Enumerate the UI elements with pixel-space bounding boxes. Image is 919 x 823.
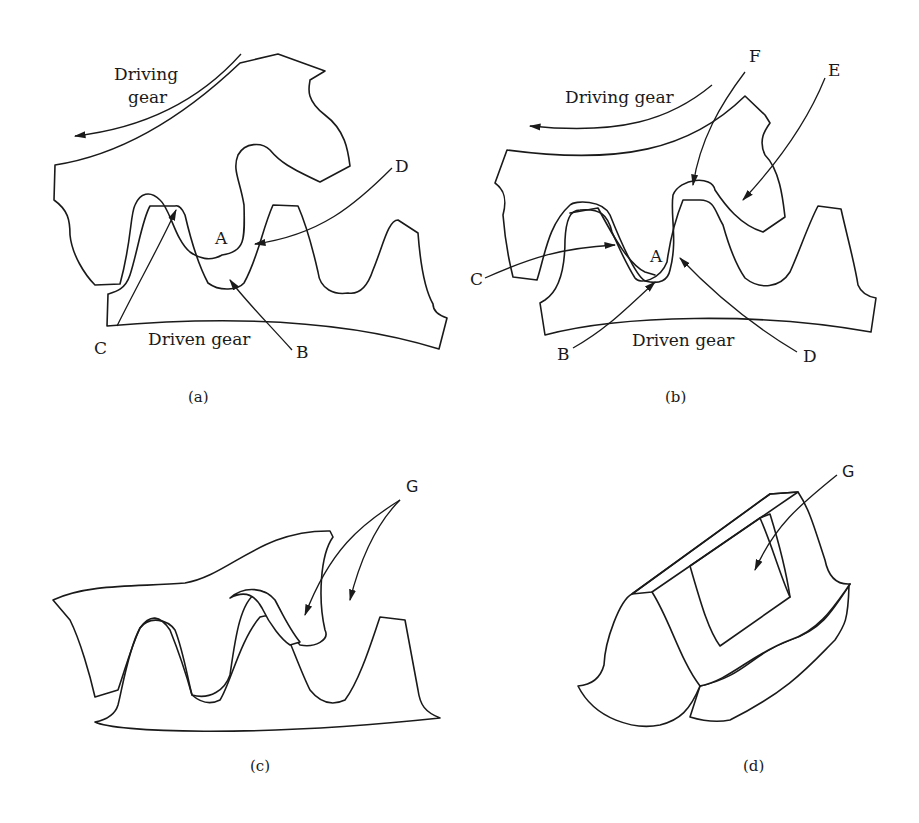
label-driving-gear-line1: Driving — [114, 64, 178, 84]
leader-c-a — [117, 210, 176, 326]
label-driven-gear: Driven gear — [632, 330, 735, 350]
caption-d: (d) — [743, 757, 764, 775]
leader-e-b — [743, 78, 825, 200]
label-A: A — [649, 246, 663, 266]
label-driving-gear-line2: gear — [128, 87, 168, 107]
label-B: B — [296, 342, 309, 362]
leader-c-b — [485, 245, 615, 278]
panel-d: G (d) — [578, 462, 854, 775]
driven-gear-outline — [540, 200, 876, 335]
label-D: D — [803, 346, 817, 366]
label-F: F — [749, 46, 761, 66]
leader-g-c2 — [350, 500, 400, 600]
caption-a: (a) — [188, 388, 209, 406]
label-C: C — [94, 338, 107, 358]
label-C: C — [470, 269, 483, 289]
caption-c: (c) — [250, 757, 270, 775]
panel-b: Driving gear Driven gear A B C D E F (b) — [470, 46, 876, 406]
label-G: G — [406, 477, 418, 496]
label-driving-gear: Driving gear — [565, 87, 675, 107]
label-B: B — [557, 344, 570, 364]
label-driven-gear: Driven gear — [148, 329, 251, 349]
gear-meshing-figure: Driving gear Driven gear A B C D (a) Dri… — [0, 0, 919, 823]
panel-a: Driving gear Driven gear A B C D (a) — [54, 54, 447, 406]
caption-b: (b) — [665, 388, 686, 406]
driven-gear-hatched — [95, 616, 440, 732]
label-E: E — [828, 60, 840, 80]
driven-gear-outline — [107, 205, 447, 349]
driving-gear-outline — [495, 96, 785, 282]
label-D: D — [395, 156, 409, 176]
panel-c: G (c) — [53, 477, 440, 775]
label-G: G — [842, 462, 854, 481]
driving-gear-hatched — [53, 531, 333, 697]
broken-tooth-body — [578, 492, 850, 726]
label-A: A — [214, 228, 228, 248]
contact-tooth-overlay — [570, 208, 655, 275]
